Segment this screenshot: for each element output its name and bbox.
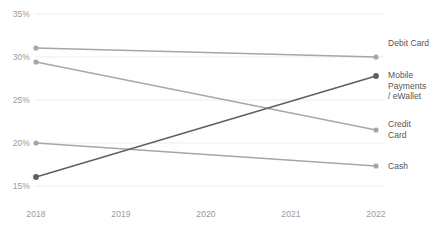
ytick-label-35: 35% [0,10,30,19]
datapoint-cash-2018 [33,140,38,145]
datapoint-mobile-payments-2022 [373,73,379,79]
ytick-label-20: 20% [0,139,30,148]
xtick-label-2018: 2018 [14,209,58,219]
datapoint-mobile-payments-2018 [33,174,39,180]
datapoint-debit-card-2018 [33,45,38,50]
xtick-label-2021: 2021 [269,209,313,219]
datapoint-debit-card-2022 [373,54,378,59]
ytick-label-30: 30% [0,53,30,62]
series-line-mobile-payments [33,73,379,180]
series-line-credit-card [33,59,378,132]
xtick-label-2019: 2019 [99,209,143,219]
series-label-debit-card: Debit Card [388,38,429,49]
series-label-cash: Cash [388,161,408,172]
ytick-label-15: 15% [0,182,30,191]
ytick-label-25: 25% [0,96,30,105]
datapoint-cash-2022 [373,163,378,168]
datapoint-credit-card-2022 [373,127,378,132]
gridlines [36,14,385,186]
series-label-credit-card: Credit Card [388,119,411,140]
datapoint-credit-card-2018 [33,59,38,64]
series-line-cash [33,140,378,168]
xtick-label-2020: 2020 [184,209,228,219]
series-label-mobile-payments: Mobile Payments / eWallet [388,70,426,102]
xtick-label-2022: 2022 [354,209,398,219]
chart-plot-area [0,0,433,236]
line-chart: 35% 30% 25% 20% 15% 2018 2019 2020 2021 … [0,0,433,236]
